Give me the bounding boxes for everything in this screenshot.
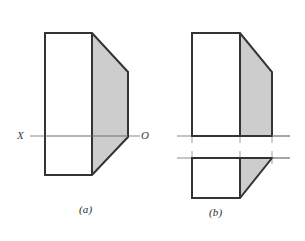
- caption-panel-b: (b): [209, 206, 222, 218]
- panel-b-upper-front-face: [192, 33, 240, 136]
- caption-panel-a: (a): [79, 203, 92, 215]
- axis-label-o: O: [141, 129, 149, 141]
- axis-label-x: X: [17, 129, 24, 141]
- panel-a-front-face: [45, 33, 92, 175]
- technical-drawing-canvas: [0, 0, 305, 241]
- figure-container: X O (a) (b): [0, 0, 305, 241]
- panel-b-lower-front-face: [192, 158, 240, 198]
